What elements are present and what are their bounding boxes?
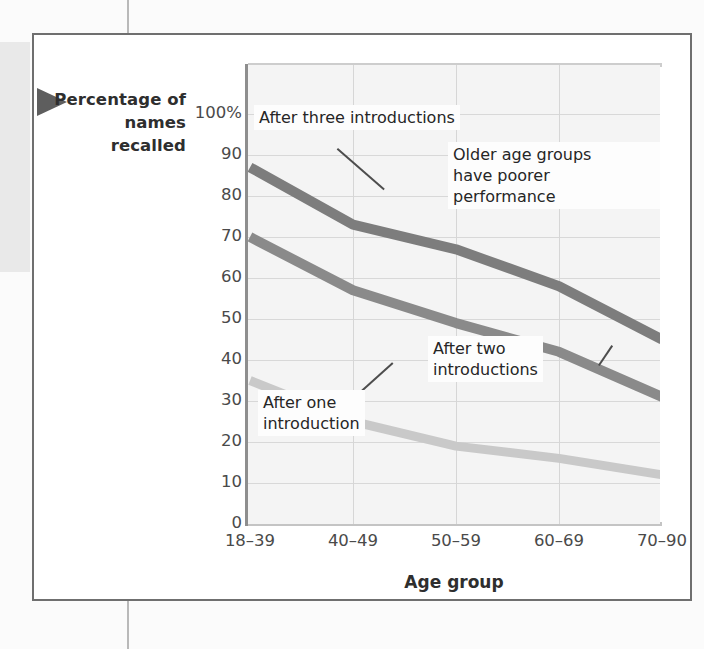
x-axis-tick-label: 40–49: [328, 531, 378, 550]
y-axis-tick-label: 80: [180, 185, 242, 204]
y-axis-title: Percentage of names recalled: [46, 88, 186, 157]
y-axis-tick-labels: 100%9080706050403020100: [178, 0, 242, 568]
y-axis-tick-label: 70: [180, 226, 242, 245]
page-edge-shadow: [0, 42, 30, 272]
x-axis-tick-label: 70–90: [637, 531, 687, 550]
annotation-older-groups: Older age groups have poorer performance: [448, 142, 660, 209]
y-axis-tick-label: 50: [180, 308, 242, 327]
y-axis-tick-label: 10: [180, 472, 242, 491]
plot-area: After three introductions Older age grou…: [248, 65, 660, 524]
x-axis-tick-label: 50–59: [431, 531, 481, 550]
y-axis-tick-label: 30: [180, 390, 242, 409]
annotation-after-three: After three introductions: [254, 105, 460, 130]
x-axis-tick-label: 60–69: [534, 531, 584, 550]
y-axis-tick-label: 90: [180, 144, 242, 163]
annotation-after-two: After two introductions: [428, 336, 543, 382]
y-axis-tick-label: 100%: [180, 103, 242, 122]
annotation-after-one: After one introduction: [258, 390, 365, 436]
y-axis-tick-label: 0: [180, 513, 242, 532]
y-axis-tick-label: 60: [180, 267, 242, 286]
series-lines: [248, 65, 660, 524]
x-axis-tick-label: 18–39: [225, 531, 275, 550]
y-axis-tick-label: 40: [180, 349, 242, 368]
x-axis-tick-labels: 18–3940–4950–5960–6970–90: [0, 531, 704, 557]
x-axis-title: Age group: [248, 572, 660, 592]
y-axis-tick-label: 20: [180, 431, 242, 450]
